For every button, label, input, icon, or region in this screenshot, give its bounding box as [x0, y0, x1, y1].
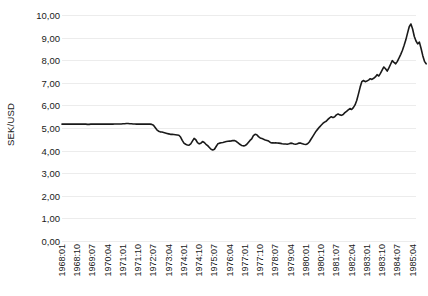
x-tick-label: 1976:04 [230, 244, 240, 277]
y-tick-label: 2,00 [42, 190, 61, 201]
sek-usd-line-chart: SEK/USD 0,001,002,003,004,005,006,007,00… [0, 0, 428, 296]
y-axis-tick-labels: 0,001,002,003,004,005,006,007,008,009,00… [20, 0, 60, 248]
x-tick-label: 1975:07 [214, 244, 224, 277]
x-tick-label: 1971:10 [138, 244, 148, 277]
x-tick-label: 1980:10 [321, 244, 331, 277]
x-tick-label: 1979:04 [291, 244, 301, 277]
x-tick-label: 1983:10 [382, 244, 392, 277]
y-tick-label: 8,00 [42, 55, 61, 66]
x-tick-label: 1977:01 [245, 244, 255, 277]
series-polyline [62, 24, 426, 150]
x-tick-label: 1971:01 [123, 244, 133, 277]
x-tick-label: 1973:04 [169, 244, 179, 277]
y-tick-label: 3,00 [42, 168, 61, 179]
x-tick-label: 1974:10 [199, 244, 209, 277]
y-axis-title-label: SEK/USD [6, 102, 17, 145]
series-line [62, 15, 416, 241]
y-tick-label: 5,00 [42, 123, 61, 134]
x-axis-tick-labels: 1968:011968:101969:071970:041971:011971:… [62, 244, 416, 296]
y-tick-label: 7,00 [42, 77, 61, 88]
x-tick-label: 1968:10 [77, 244, 87, 277]
y-tick-label: 10,00 [36, 10, 60, 21]
y-tick-label: 9,00 [42, 32, 61, 43]
x-tick-label: 1985:04 [413, 244, 423, 277]
x-tick-label: 1968:01 [62, 244, 72, 277]
x-tick-label: 1983:01 [367, 244, 377, 277]
y-tick-label: 6,00 [42, 100, 61, 111]
gridline [62, 241, 416, 242]
x-tick-label: 1974:01 [184, 244, 194, 277]
y-tick-label: 4,00 [42, 145, 61, 156]
x-tick-label: 1969:07 [92, 244, 102, 277]
x-tick-label: 1984:07 [397, 244, 407, 277]
x-tick-label: 1981:07 [336, 244, 346, 277]
plot-area [62, 15, 416, 241]
y-axis-title: SEK/USD [0, 0, 22, 248]
x-tick-label: 1978:07 [275, 244, 285, 277]
y-tick-label: 1,00 [42, 213, 61, 224]
x-tick-label: 1982:04 [352, 244, 362, 277]
x-tick-label: 1970:04 [108, 244, 118, 277]
x-tick-label: 1980:01 [306, 244, 316, 277]
x-tick-label: 1972:07 [153, 244, 163, 277]
x-tick-label: 1977:10 [260, 244, 270, 277]
